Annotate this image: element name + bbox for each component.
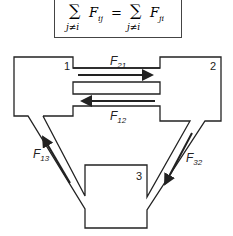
node-label-1: 1 [64, 60, 70, 72]
middle-block [73, 82, 160, 94]
flow-label-f32: F32 [186, 151, 203, 167]
flow-label-f13: F13 [33, 147, 50, 163]
node-label-3: 3 [136, 170, 142, 182]
flow-label-f12: F12 [110, 109, 127, 125]
flow-diagram: 1 2 3 F21 F12 F13 F32 [0, 0, 233, 236]
node-label-2: 2 [210, 60, 216, 72]
flow-label-f21: F21 [110, 54, 126, 70]
